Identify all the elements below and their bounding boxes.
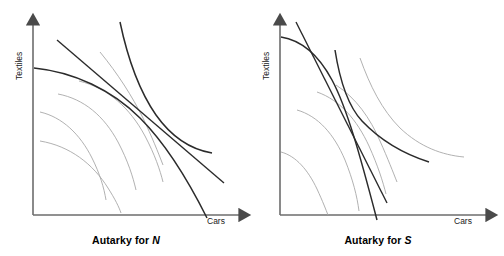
panel-caption: Autarky for S [252,234,504,246]
x-axis-label: Cars [207,216,225,226]
panel-autarky-n: Textiles Cars Autarky for N [0,0,252,256]
indifference-curve [360,58,464,157]
indifference-curve [40,141,121,213]
y-axis-label: Textiles [14,52,24,80]
y-axis-label: Textiles [261,52,271,80]
caption-symbol: N [152,234,160,246]
x-axis-label: Cars [454,216,472,226]
indifference-curve [100,52,163,165]
production-possibility-frontier [34,68,207,218]
panel-caption: Autarky for N [0,234,252,246]
indifference-curve [336,85,397,182]
autarky-figure: Textiles Cars Autarky for N [0,0,504,256]
indifference-curve [281,152,328,215]
caption-text: Autarky for [92,234,152,246]
caption-symbol: S [405,234,412,246]
price-line [57,40,224,183]
indifference-curve [58,94,136,190]
panel-autarky-s: Textiles Cars Autarky for S [252,0,504,256]
caption-text: Autarky for [344,234,404,246]
indifference-curve [40,112,106,200]
